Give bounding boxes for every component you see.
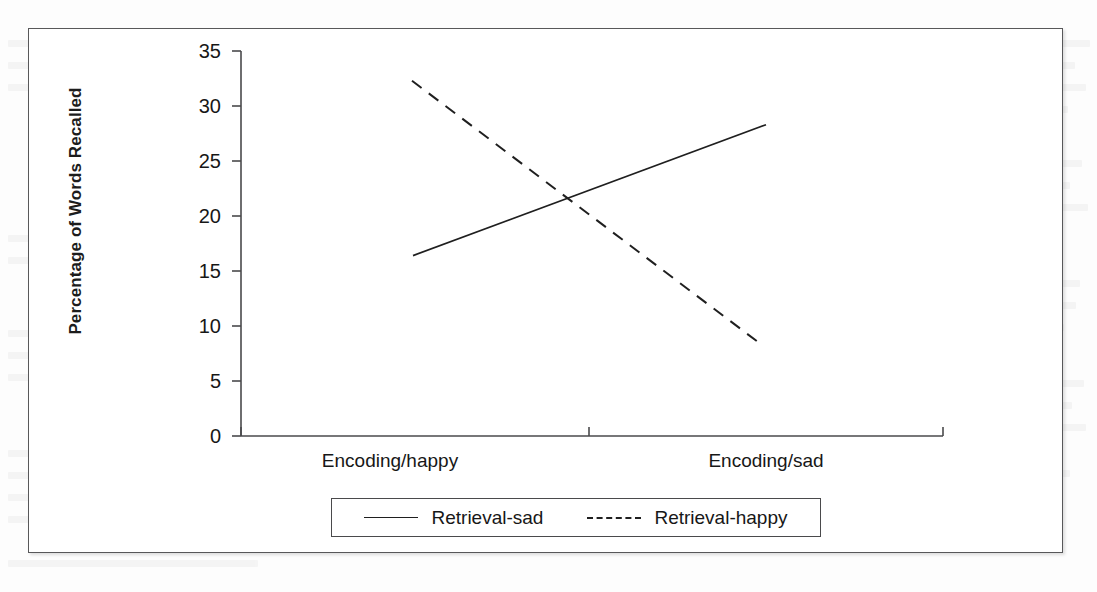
series-line-retrieval-happy xyxy=(412,81,763,346)
legend-label-retrieval-sad: Retrieval-sad xyxy=(431,507,543,529)
y-tick-label-0: 0 xyxy=(175,426,221,446)
page-root: Percentage of Words Recalled 35 30 25 20… xyxy=(0,0,1097,592)
legend-entry-retrieval-sad: Retrieval-sad xyxy=(364,507,543,529)
figure-frame: Percentage of Words Recalled 35 30 25 20… xyxy=(28,28,1063,553)
legend-label-retrieval-happy: Retrieval-happy xyxy=(654,507,787,529)
y-tick-label-25: 25 xyxy=(175,151,221,171)
legend-swatch-solid-line-icon xyxy=(364,517,418,519)
y-tick-label-20: 20 xyxy=(175,206,221,226)
y-tick-label-5: 5 xyxy=(175,371,221,391)
plot-area: Percentage of Words Recalled 35 30 25 20… xyxy=(29,29,1064,554)
legend-swatch-dashed-line-icon xyxy=(587,517,641,519)
chart-legend: Retrieval-sad Retrieval-happy xyxy=(331,498,821,537)
legend-entry-retrieval-happy: Retrieval-happy xyxy=(587,507,787,529)
series-line-retrieval-sad xyxy=(413,125,766,256)
y-axis-ticks xyxy=(232,51,241,436)
y-tick-label-30: 30 xyxy=(175,96,221,116)
y-tick-label-15: 15 xyxy=(175,261,221,281)
x-tick-label-encoding-sad: Encoding/sad xyxy=(671,450,861,472)
y-axis-title: Percentage of Words Recalled xyxy=(66,61,86,361)
x-axis-ticks xyxy=(241,427,943,436)
y-tick-label-35: 35 xyxy=(175,41,221,61)
y-tick-label-10: 10 xyxy=(175,316,221,336)
x-tick-label-encoding-happy: Encoding/happy xyxy=(295,450,485,472)
